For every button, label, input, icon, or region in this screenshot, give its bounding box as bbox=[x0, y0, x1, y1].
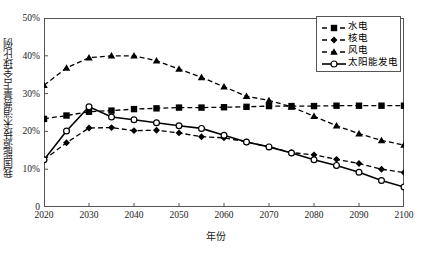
x-axis-title: 年份 bbox=[0, 228, 432, 243]
data-point-marker bbox=[44, 116, 47, 122]
data-point-marker bbox=[334, 163, 340, 169]
data-point-marker bbox=[378, 102, 384, 108]
x-tick-label: 2040 bbox=[125, 210, 144, 220]
data-point-marker bbox=[198, 104, 204, 110]
data-point-marker bbox=[355, 130, 363, 137]
data-point-marker bbox=[331, 25, 337, 31]
x-tick-label: 2020 bbox=[35, 210, 54, 220]
data-point-marker bbox=[175, 65, 183, 72]
data-point-marker bbox=[266, 144, 272, 150]
data-point-marker bbox=[131, 127, 138, 134]
data-point-marker bbox=[63, 112, 69, 118]
x-tick-label: 2080 bbox=[305, 210, 324, 220]
legend-symbol-square-icon bbox=[321, 20, 347, 32]
chart-legend: 水电核电风电太阳能发电 bbox=[316, 16, 401, 72]
data-point-marker bbox=[108, 124, 115, 131]
chart-figure: 我国能源技术消费量占全球比例 010%20%30%40%50% 20202030… bbox=[0, 0, 432, 254]
data-point-marker bbox=[221, 132, 227, 138]
data-point-marker bbox=[44, 157, 47, 163]
data-point-marker bbox=[221, 104, 227, 110]
legend-item-0[interactable]: 水电 bbox=[321, 20, 396, 32]
data-point-marker bbox=[85, 54, 93, 61]
y-tick-label: 50% bbox=[4, 13, 44, 23]
data-point-marker bbox=[176, 129, 183, 136]
data-point-marker bbox=[310, 113, 318, 120]
x-tick-label: 2030 bbox=[80, 210, 99, 220]
x-tick-label: 2050 bbox=[170, 210, 189, 220]
legend-label: 核电 bbox=[347, 32, 368, 44]
data-point-marker bbox=[176, 123, 182, 129]
legend-symbol-triangle-icon bbox=[321, 44, 347, 56]
data-point-marker bbox=[378, 166, 385, 173]
series-0 bbox=[44, 102, 404, 122]
legend-item-2[interactable]: 风电 bbox=[321, 44, 396, 56]
data-point-marker bbox=[244, 139, 250, 145]
data-point-marker bbox=[63, 64, 71, 71]
legend-symbol-diamond-icon bbox=[321, 32, 347, 44]
x-tick-label: 2090 bbox=[350, 210, 369, 220]
data-point-marker bbox=[220, 83, 228, 90]
data-point-marker bbox=[243, 104, 249, 110]
data-point-marker bbox=[401, 184, 404, 190]
y-tick-label: 40% bbox=[4, 51, 44, 61]
data-point-marker bbox=[243, 92, 251, 99]
data-point-marker bbox=[333, 122, 341, 129]
legend-label: 太阳能发电 bbox=[347, 56, 398, 68]
data-point-marker bbox=[199, 125, 205, 131]
data-point-marker bbox=[109, 114, 115, 120]
data-point-marker bbox=[333, 102, 339, 108]
data-point-marker bbox=[266, 103, 272, 109]
x-tick-label: 2100 bbox=[395, 210, 414, 220]
data-point-marker bbox=[378, 137, 386, 144]
x-tick-label: 2070 bbox=[260, 210, 279, 220]
data-point-marker bbox=[356, 169, 362, 175]
data-point-marker bbox=[356, 160, 363, 167]
data-point-marker bbox=[130, 52, 138, 59]
data-point-marker bbox=[131, 106, 137, 112]
data-point-marker bbox=[154, 120, 160, 126]
legend-symbol-circle-icon bbox=[321, 56, 347, 68]
series-3 bbox=[44, 104, 404, 190]
data-point-marker bbox=[331, 37, 338, 44]
data-point-marker bbox=[311, 157, 317, 163]
data-point-marker bbox=[401, 169, 404, 176]
data-point-marker bbox=[176, 104, 182, 110]
data-point-marker bbox=[331, 61, 337, 67]
y-tick-label: 20% bbox=[4, 126, 44, 136]
data-point-marker bbox=[198, 74, 206, 81]
data-point-marker bbox=[265, 97, 273, 104]
y-tick-label: 30% bbox=[4, 89, 44, 99]
data-point-marker bbox=[86, 104, 92, 110]
data-point-marker bbox=[131, 117, 137, 123]
data-point-marker bbox=[86, 125, 93, 132]
data-point-marker bbox=[311, 103, 317, 109]
data-point-marker bbox=[64, 128, 70, 134]
data-point-marker bbox=[153, 57, 161, 64]
y-tick-label: 10% bbox=[4, 164, 44, 174]
data-point-marker bbox=[356, 102, 362, 108]
data-point-marker bbox=[379, 178, 385, 184]
legend-item-1[interactable]: 核电 bbox=[321, 32, 396, 44]
legend-item-3[interactable]: 太阳能发电 bbox=[321, 56, 396, 68]
data-point-marker bbox=[108, 52, 116, 59]
data-point-marker bbox=[333, 156, 340, 163]
x-tick-label: 2060 bbox=[215, 210, 234, 220]
data-point-marker bbox=[289, 150, 295, 156]
legend-label: 风电 bbox=[347, 44, 368, 56]
data-point-marker bbox=[108, 107, 114, 113]
data-point-marker bbox=[401, 102, 404, 108]
series-line bbox=[44, 107, 404, 187]
data-point-marker bbox=[153, 127, 160, 134]
data-point-marker bbox=[198, 133, 205, 140]
legend-label: 水电 bbox=[347, 20, 368, 32]
data-point-marker bbox=[153, 105, 159, 111]
